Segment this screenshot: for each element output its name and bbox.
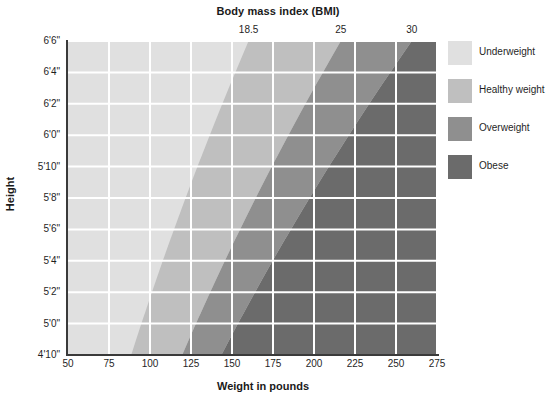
y-axis-tick-label: 5'6" <box>14 223 60 234</box>
bmi-band-regions <box>68 41 437 355</box>
y-axis-tick-label: 6'6" <box>14 35 60 46</box>
bmi-axis-tick-label: 25 <box>321 24 361 35</box>
x-axis-tick-label: 125 <box>171 358 211 369</box>
legend-label: Obese <box>479 160 508 171</box>
x-axis-tick-label: 200 <box>294 358 334 369</box>
legend-label: Underweight <box>479 46 535 57</box>
y-axis-tick-label: 5'4" <box>14 255 60 266</box>
chart-top-title: Body mass index (BMI) <box>178 5 378 17</box>
bmi-axis-tick-label: 30 <box>392 24 432 35</box>
x-axis-tick-label: 75 <box>89 358 129 369</box>
x-axis-tick-label: 225 <box>335 358 375 369</box>
x-axis-tick-label: 50 <box>48 358 88 369</box>
y-axis-line <box>66 40 68 356</box>
x-axis-tick-label: 150 <box>212 358 252 369</box>
legend-item[interactable]: Obese <box>448 155 553 179</box>
y-axis-tick-label: 5'8" <box>14 192 60 203</box>
legend-swatch <box>448 79 472 103</box>
y-axis-tick-label: 6'2" <box>14 98 60 109</box>
legend-item[interactable]: Underweight <box>448 41 553 65</box>
legend: UnderweightHealthy weightOverweightObese <box>448 41 553 193</box>
legend-item[interactable]: Overweight <box>448 117 553 141</box>
y-axis-tick-label: 5'10" <box>14 161 60 172</box>
y-axis-tick-label: 6'0" <box>14 129 60 140</box>
legend-label: Healthy weight <box>479 84 545 95</box>
x-axis-tick-label: 100 <box>130 358 170 369</box>
x-axis-title: Weight in pounds <box>168 380 358 392</box>
x-axis-tick-label: 250 <box>376 358 416 369</box>
legend-label: Overweight <box>479 122 530 133</box>
legend-item[interactable]: Healthy weight <box>448 79 553 103</box>
bmi-chart-figure: Body mass index (BMI) 18.52530 4'10"5'0"… <box>0 0 555 404</box>
y-axis-tick-label: 5'0" <box>14 318 60 329</box>
legend-swatch <box>448 117 472 141</box>
x-axis-line <box>66 354 439 356</box>
x-axis-tick-label: 175 <box>253 358 293 369</box>
legend-swatch <box>448 155 472 179</box>
y-axis-title: Height <box>4 164 16 224</box>
bmi-axis-tick-label: 18.5 <box>229 24 269 35</box>
legend-swatch <box>448 41 472 65</box>
y-axis-tick-label: 5'2" <box>14 286 60 297</box>
plot-area <box>68 41 437 355</box>
y-axis-tick-label: 6'4" <box>14 66 60 77</box>
x-axis-tick-label: 275 <box>417 358 457 369</box>
